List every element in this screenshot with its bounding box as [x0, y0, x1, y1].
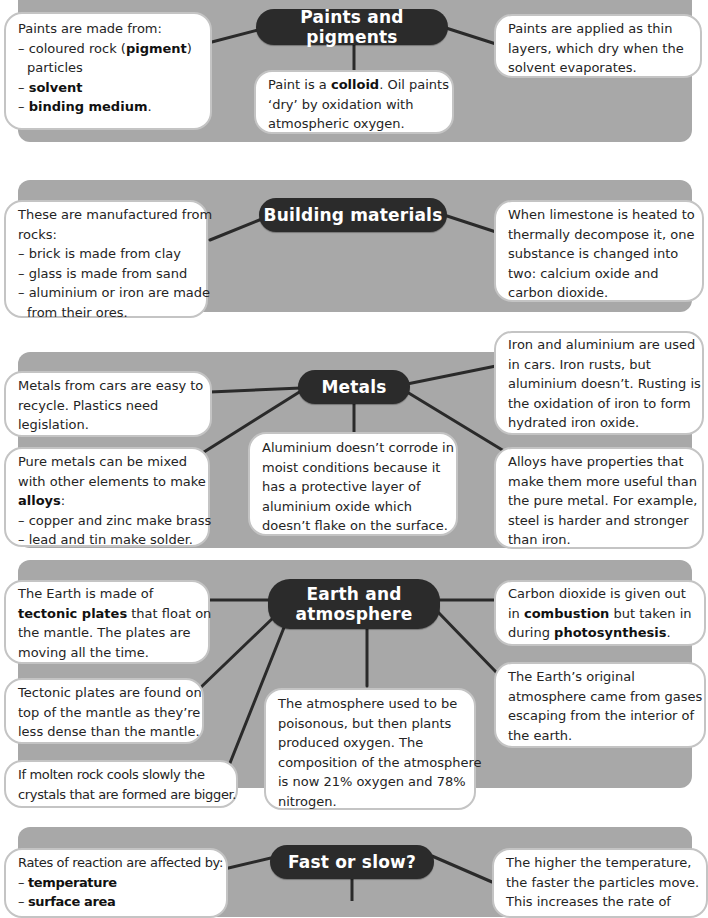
keyword-pigment: pigment: [126, 41, 187, 56]
note-line: from their ores.: [18, 303, 196, 323]
note-line: Pure metals can be mixed: [18, 452, 198, 472]
note-line: aluminium doesn’t. Rusting is: [508, 374, 692, 394]
note-text: .: [147, 99, 151, 114]
note-line: has a protective layer of: [262, 477, 446, 497]
note-limestone-decomposition: When limestone is heated to thermally de…: [494, 200, 704, 302]
note-line: legislation.: [18, 415, 200, 435]
note-text: . Oil paints: [379, 77, 449, 92]
note-alloys-mixing: Pure metals can be mixed with other elem…: [4, 447, 210, 547]
note-line: crystals that are formed are bigger.: [18, 785, 226, 805]
note-line: atmosphere came from gases: [508, 687, 694, 707]
topic-metals: Metals: [298, 370, 410, 404]
topic-title: Building materials: [264, 205, 443, 225]
keyword-colloid: colloid: [331, 77, 379, 92]
note-text: in: [508, 606, 524, 621]
note-line: nitrogen.: [278, 792, 464, 812]
keyword-tectonic-plates: tectonic plates: [18, 606, 127, 621]
note-alloy-properties: Alloys have properties that make them mo…: [494, 447, 704, 549]
keyword-combustion: combustion: [524, 606, 609, 621]
note-line: make them more useful than: [508, 472, 692, 492]
note-text: – coloured rock (: [18, 41, 126, 56]
note-line: This increases the rate of: [506, 892, 696, 912]
note-line: the mantle. The plates are: [18, 623, 198, 643]
note-line: – brick is made from clay: [18, 244, 196, 264]
note-line: Iron and aluminium are used: [508, 335, 692, 355]
note-rates-of-reaction: Rates of reaction are affected by: – tem…: [4, 848, 228, 918]
note-line: – copper and zinc make brass: [18, 511, 198, 531]
note-tectonic-plates: The Earth is made of tectonic plates tha…: [4, 580, 210, 664]
note-text: ): [187, 41, 192, 56]
note-line: If molten rock cools slowly the: [18, 765, 226, 785]
note-line: These are manufactured from: [18, 205, 196, 225]
note-text: Paint is a: [268, 77, 331, 92]
note-line: layers, which dry when the: [508, 39, 690, 59]
note-line: top of the mantle as they’re: [18, 703, 192, 723]
note-paint-application: Paints are applied as thin layers, which…: [494, 14, 702, 78]
keyword-photosynthesis: photosynthesis: [554, 625, 666, 640]
note-line: thermally decompose it, one: [508, 225, 692, 245]
note-line: recycle. Plastics need: [18, 396, 200, 416]
note-paint-ingredients: Paints are made from: – coloured rock (p…: [4, 12, 212, 130]
note-line: with other elements to make: [18, 472, 198, 492]
note-line: Metals from cars are easy to: [18, 376, 200, 396]
note-iron-aluminium-cars: Iron and aluminium are used in cars. Iro…: [494, 331, 704, 435]
note-line: moist conditions because it: [262, 458, 446, 478]
note-paint-colloid: Paint is a colloid. Oil paints ‘dry’ by …: [254, 70, 454, 134]
note-line: The Earth is made of: [18, 584, 198, 604]
note-line: the faster the particles move.: [506, 873, 696, 893]
keyword-temperature: temperature: [28, 875, 117, 890]
note-line: The Earth’s original: [508, 667, 694, 687]
note-text: –: [18, 99, 29, 114]
note-line: particles: [18, 58, 200, 78]
note-line: Tectonic plates are found on: [18, 683, 192, 703]
note-line: in cars. Iron rusts, but: [508, 355, 692, 375]
note-text: –: [18, 894, 28, 909]
note-line: Paints are applied as thin: [508, 19, 690, 39]
note-line: carbon dioxide.: [508, 283, 692, 303]
topic-title: Metals: [321, 377, 386, 397]
note-line: Aluminium doesn’t corrode in: [262, 438, 446, 458]
note-line: moving all the time.: [18, 643, 198, 663]
note-line: steel is harder and stronger: [508, 511, 692, 531]
note-line: less dense than the mantle.: [18, 722, 192, 742]
note-line: produced oxygen. The: [278, 733, 464, 753]
note-manufactured-from-rocks: These are manufactured from rocks: – bri…: [4, 200, 208, 318]
note-text: .: [666, 625, 670, 640]
note-aluminium-corrosion: Aluminium doesn’t corrode in moist condi…: [248, 432, 458, 536]
note-line: the oxidation of iron to form: [508, 394, 692, 414]
note-line: hydrated iron oxide.: [508, 413, 692, 433]
topic-building-materials: Building materials: [259, 198, 447, 232]
note-carbon-dioxide-cycle: Carbon dioxide is given out in combustio…: [494, 580, 706, 646]
note-line: Alloys have properties that: [508, 452, 692, 472]
note-line: The higher the temperature,: [506, 853, 696, 873]
note-line: rocks:: [18, 225, 196, 245]
note-line: The atmosphere used to be: [278, 694, 464, 714]
note-line: is now 21% oxygen and 78%: [278, 772, 464, 792]
note-original-atmosphere: The Earth’s original atmosphere came fro…: [494, 662, 706, 748]
note-line: two: calcium oxide and: [508, 264, 692, 284]
note-text: –: [18, 80, 29, 95]
note-line: the earth.: [508, 726, 694, 746]
topic-title-line-2: atmosphere: [296, 604, 413, 624]
note-line: Paints are made from:: [18, 19, 200, 39]
note-line: When limestone is heated to: [508, 205, 692, 225]
note-line: the pure metal. For example,: [508, 491, 692, 511]
note-line: ‘dry’ by oxidation with: [268, 95, 442, 115]
note-text: but taken in: [609, 606, 691, 621]
note-line: doesn’t flake on the surface.: [262, 516, 446, 536]
note-line: aluminium oxide which: [262, 497, 446, 517]
note-line: than iron.: [508, 530, 692, 550]
keyword-binding-medium: binding medium: [29, 99, 148, 114]
keyword-surface-area: surface area: [28, 894, 115, 909]
note-line: – glass is made from sand: [18, 264, 196, 284]
topic-title-line-1: Earth and: [306, 584, 401, 604]
keyword-alloys: alloys: [18, 493, 61, 508]
note-line: atmospheric oxygen.: [268, 114, 442, 134]
topic-paints-and-pigments: Paints and pigments: [256, 9, 448, 45]
note-text: that float on: [127, 606, 211, 621]
keyword-solvent: solvent: [29, 80, 83, 95]
note-line: escaping from the interior of: [508, 706, 694, 726]
note-molten-rock-crystals: If molten rock cools slowly the crystals…: [4, 760, 238, 808]
topic-fast-or-slow: Fast or slow?: [270, 845, 434, 879]
note-text: during: [508, 625, 554, 640]
